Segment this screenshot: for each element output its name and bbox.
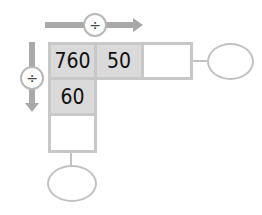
horizontal-arrowhead-icon [133,18,143,32]
cell-row-divisor: 50 [94,42,144,80]
divide-icon: ÷ [26,70,38,86]
arrows-layer [0,0,262,215]
vertical-divide-operator: ÷ [20,66,44,90]
cell-row-result[interactable] [141,42,193,80]
cell-column-result[interactable] [48,113,97,153]
divide-icon: ÷ [89,17,101,33]
right-answer-oval[interactable] [207,43,254,80]
cell-start: 760 [48,42,97,80]
vertical-arrowhead-icon [25,103,39,112]
bottom-answer-oval[interactable] [47,165,97,202]
horizontal-divide-operator: ÷ [83,13,107,37]
cell-column-divisor: 60 [48,77,97,116]
